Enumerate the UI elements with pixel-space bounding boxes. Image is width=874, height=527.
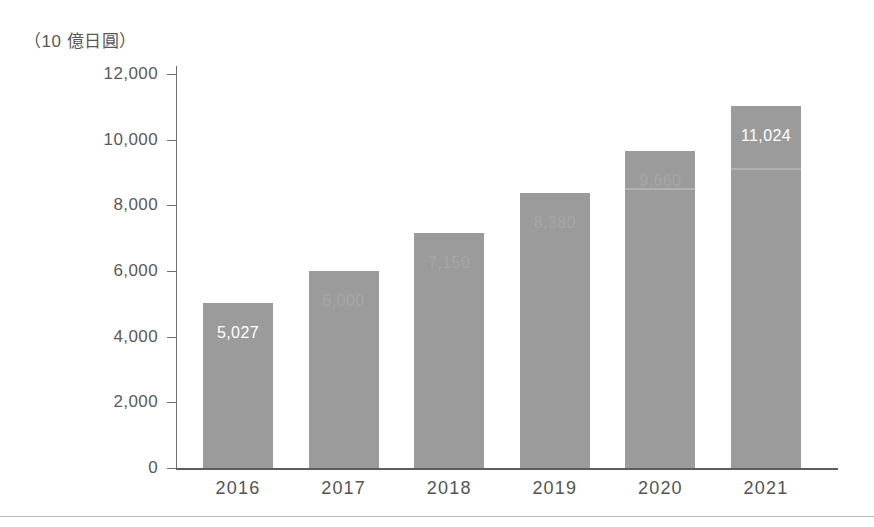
y-tick-label: 12,000 [72, 64, 158, 84]
bar[interactable]: 6,000 [309, 271, 379, 468]
bar[interactable]: 9,660 [625, 151, 695, 468]
x-axis-label: 2021 [713, 478, 819, 499]
y-tick-mark [167, 337, 177, 338]
x-axis-line [176, 468, 838, 470]
y-tick-mark [167, 468, 177, 469]
x-axis-label: 2017 [291, 478, 397, 499]
bottom-divider [0, 516, 874, 517]
y-tick-label: 0 [72, 458, 158, 478]
bar-band [731, 168, 801, 170]
x-axis-label: 2019 [502, 478, 608, 499]
bar-value-label: 5,027 [203, 324, 273, 342]
y-tick-mark [167, 140, 177, 141]
bar[interactable]: 8,380 [520, 193, 590, 468]
bar-value-label: 11,024 [731, 127, 801, 145]
bar[interactable]: 7,150 [414, 233, 484, 468]
y-tick-label: 8,000 [72, 195, 158, 215]
y-tick-mark [167, 271, 177, 272]
bar-band [625, 188, 695, 190]
y-tick-label: 2,000 [72, 392, 158, 412]
bar[interactable]: 5,027 [203, 303, 273, 468]
y-tick-mark [167, 205, 177, 206]
bar-value-label: 6,000 [309, 292, 379, 310]
y-tick-label: 4,000 [72, 327, 158, 347]
y-tick-label: 6,000 [72, 261, 158, 281]
y-tick-label: 10,000 [72, 130, 158, 150]
chart-page: （10 億日圓） 02,0004,0006,0008,00010,00012,0… [0, 0, 874, 527]
y-axis-line [176, 66, 177, 469]
bar-value-label: 7,150 [414, 254, 484, 272]
plot-area: 02,0004,0006,0008,00010,00012,000 5,0276… [0, 0, 874, 527]
x-axis-label: 2018 [396, 478, 502, 499]
x-axis-label: 2020 [607, 478, 713, 499]
y-tick-mark [167, 74, 177, 75]
x-axis-label: 2016 [185, 478, 291, 499]
bar[interactable]: 11,024 [731, 106, 801, 468]
bar-value-label: 8,380 [520, 214, 590, 232]
y-tick-mark [167, 402, 177, 403]
